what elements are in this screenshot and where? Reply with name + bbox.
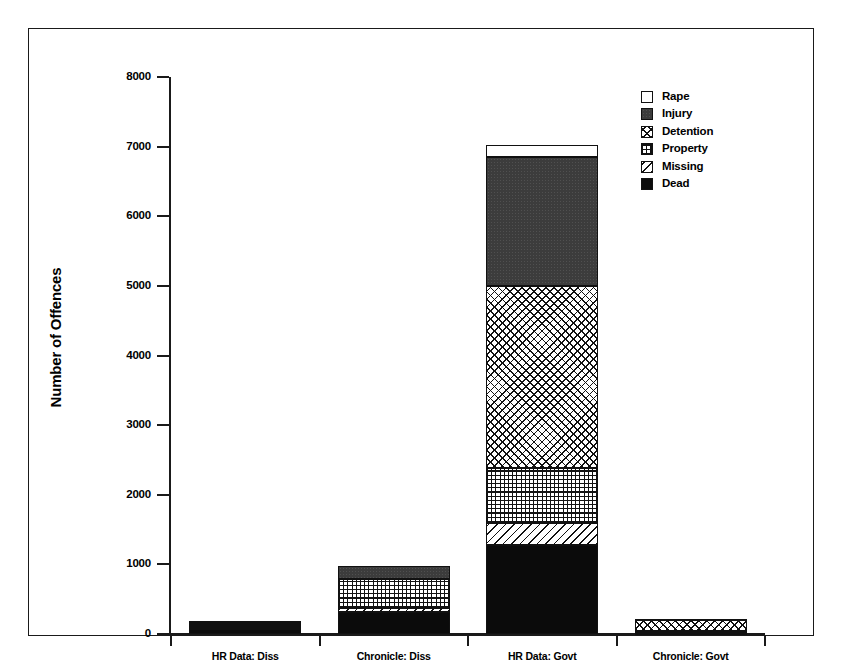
y-axis-tick-label: 2000 xyxy=(107,489,151,501)
bar-segment-rape[interactable] xyxy=(486,145,598,158)
y-axis-tick-mark xyxy=(157,633,169,635)
x-axis-tick-label: HR Data: Govt xyxy=(468,651,617,662)
plot-area: Number of Offences 800070006000500040003… xyxy=(29,29,813,635)
legend-item[interactable]: Injury xyxy=(641,107,791,122)
swatch-dark-gray-icon xyxy=(641,108,653,120)
bar-segment-property[interactable] xyxy=(486,468,598,522)
bar-segment-property[interactable] xyxy=(635,631,747,633)
swatch-white-icon xyxy=(641,91,653,103)
chart-legend: RapeInjuryDetentionPropertyMissingDead xyxy=(641,89,791,194)
y-axis-line xyxy=(169,77,171,635)
bar-segment-property[interactable] xyxy=(338,579,450,608)
swatch-grid-hatch-icon xyxy=(641,143,653,155)
x-axis-tick-mark xyxy=(764,635,766,646)
legend-item[interactable]: Property xyxy=(641,142,791,157)
y-axis-tick-mark xyxy=(157,215,169,217)
legend-item-label: Detention xyxy=(662,126,713,138)
y-axis-title: Number of Offences xyxy=(47,208,64,468)
y-axis-tick-mark xyxy=(157,494,169,496)
swatch-x-hatch-icon xyxy=(641,126,653,138)
bar-segment-injury[interactable] xyxy=(189,621,301,623)
legend-item-label: Rape xyxy=(662,91,689,103)
y-axis-tick-label: 8000 xyxy=(107,71,151,83)
y-axis-tick-label: 3000 xyxy=(107,419,151,431)
bar-segment-missing[interactable] xyxy=(486,523,598,545)
bar-segment-injury[interactable] xyxy=(486,157,598,286)
bar-segment-detention[interactable] xyxy=(635,620,747,631)
y-axis-tick-label: 7000 xyxy=(107,141,151,153)
bar-segment-missing[interactable] xyxy=(189,627,301,629)
bar-segment-dead[interactable] xyxy=(189,629,301,634)
bar-chronicle-diss[interactable] xyxy=(338,566,450,634)
bar-chronicle-govt[interactable] xyxy=(635,619,747,634)
bar-hr-data-govt[interactable] xyxy=(486,145,598,634)
y-axis-tick-label: 4000 xyxy=(107,350,151,362)
y-axis-tick-mark xyxy=(157,285,169,287)
swatch-solid-black-icon xyxy=(641,178,653,190)
y-axis-tick-mark xyxy=(157,563,169,565)
y-axis-tick-mark xyxy=(157,146,169,148)
bar-segment-dead[interactable] xyxy=(486,545,598,634)
y-axis-tick-mark xyxy=(157,76,169,78)
y-axis-tick-mark xyxy=(157,355,169,357)
x-axis-tick-mark xyxy=(616,635,618,646)
y-axis-tick-label: 5000 xyxy=(107,280,151,292)
x-axis-tick-mark xyxy=(467,635,469,646)
legend-item[interactable]: Missing xyxy=(641,159,791,174)
bar-hr-data-diss[interactable] xyxy=(189,621,301,634)
x-axis-tick-label: Chronicle: Diss xyxy=(320,651,469,662)
x-axis-tick-label: Chronicle: Govt xyxy=(617,651,766,662)
legend-item[interactable]: Rape xyxy=(641,89,791,104)
bar-segment-dead[interactable] xyxy=(338,612,450,634)
bar-segment-missing[interactable] xyxy=(338,608,450,611)
legend-item-label: Dead xyxy=(662,178,689,190)
bar-segment-injury[interactable] xyxy=(338,566,450,579)
legend-item-label: Property xyxy=(662,143,708,155)
swatch-diagonal-line-icon xyxy=(641,161,653,173)
y-axis-tick-label: 6000 xyxy=(107,210,151,222)
y-axis-tick-mark xyxy=(157,424,169,426)
bar-segment-detention[interactable] xyxy=(486,286,598,468)
legend-item[interactable]: Detention xyxy=(641,124,791,139)
legend-item-label: Missing xyxy=(662,161,703,173)
figure-frame: Number of Offences 800070006000500040003… xyxy=(28,28,814,636)
x-axis-tick-mark xyxy=(319,635,321,646)
y-axis-tick-label: 0 xyxy=(107,628,151,640)
legend-item-label: Injury xyxy=(662,108,692,120)
x-axis-tick-mark xyxy=(170,635,172,646)
legend-item[interactable]: Dead xyxy=(641,177,791,192)
y-axis-tick-label: 1000 xyxy=(107,558,151,570)
bar-segment-injury[interactable] xyxy=(635,619,747,621)
x-axis-tick-label: HR Data: Diss xyxy=(171,651,320,662)
